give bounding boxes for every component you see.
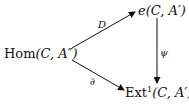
node-ext: Ext1(C, A′) (125, 86, 189, 99)
node-hom: Hom(C, A″) (4, 47, 78, 60)
hom-func: Hom (4, 46, 36, 61)
label-psi: ψ (160, 48, 168, 58)
ext-args: (C, A′) (152, 85, 189, 100)
node-e: e(C, A′) (138, 4, 186, 17)
label-partial: ∂ (90, 77, 95, 87)
arrow-D (72, 12, 135, 48)
e-args: (C, A′) (146, 3, 186, 18)
label-D: D (98, 20, 106, 30)
arrow-partial (72, 60, 124, 90)
e-func: e (138, 3, 146, 18)
ext-func: Ext (125, 85, 147, 100)
hom-args: (C, A″) (36, 46, 78, 61)
